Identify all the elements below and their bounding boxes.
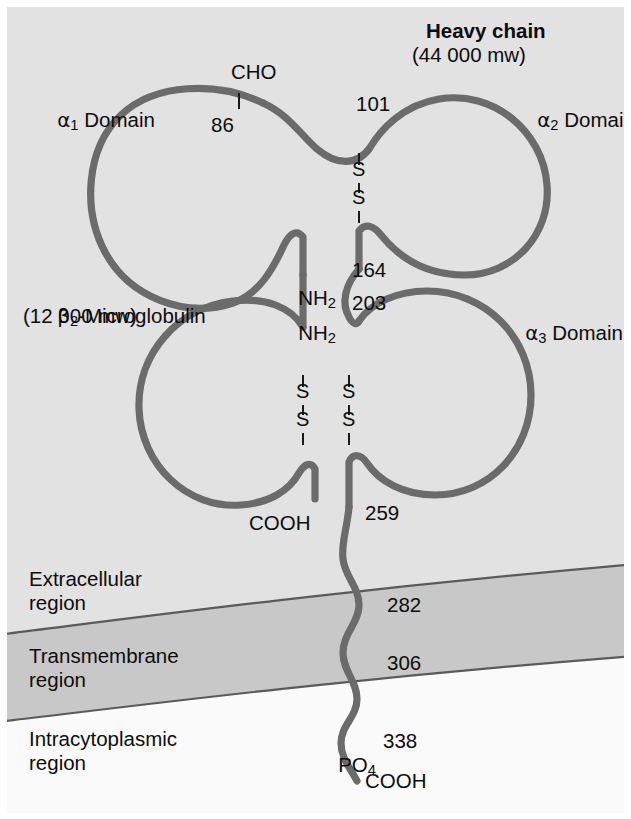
heavy-chain-title: Heavy chain [426,19,546,43]
residue-282: 282 [387,593,421,617]
residue-203: 203 [352,291,386,315]
alpha3-domain-label: α3 Domain [491,297,623,371]
alpha1-greek-symbol: α [57,109,70,132]
residue-86: 86 [211,113,234,137]
extracellular-region-line1: Extracellular [29,567,142,591]
intracytoplasmic-region-line1: Intracytoplasmic [29,727,177,751]
heavy-chain-mw: (44 000 mw) [412,43,526,67]
extracellular-region-line2: region [29,591,86,615]
b2m-mw: (12 000 mw) [23,304,137,328]
sulfur-b2m-upper: S [296,380,309,403]
transmembrane-region-line1: Transmembrane [29,644,179,668]
alpha1-alpha2-linker [263,103,369,161]
alpha2-greek-symbol: α [537,109,550,132]
sulfur-a2-upper: S [352,158,365,181]
nh2-b2m-text: NH [298,321,328,344]
sulfur-a3-upper: S [342,380,355,403]
alpha3-domain-text: Domain [552,321,623,344]
figure-page: Heavy chain (44 000 mw) α1 Domain α2 Dom… [0,0,631,819]
alpha3-subscript: 3 [538,330,546,346]
residue-101: 101 [356,92,390,116]
alpha3-greek-symbol: α [525,322,538,345]
nh2-b2m: NH2 [264,297,336,371]
residue-259: 259 [365,501,399,525]
nh2-b2m-subscript: 2 [328,330,336,346]
alpha2-domain-label: α2 Domain [503,84,624,158]
alpha2-subscript: 2 [550,117,558,133]
diagram-panel: Heavy chain (44 000 mw) α1 Domain α2 Dom… [7,7,624,813]
po4-label: PO4 [304,729,376,803]
cho-label: CHO [231,60,277,84]
alpha1-domain-text: Domain [84,108,155,131]
transmembrane-region-line2: region [29,668,86,692]
residue-164: 164 [352,258,386,282]
residue-338: 338 [383,729,417,753]
cooh-b2m: COOH [249,511,311,535]
po4-text: PO [338,753,368,776]
residue-306: 306 [387,651,421,675]
alpha1-subscript: 1 [70,117,78,133]
intracytoplasmic-region-line2: region [29,751,86,775]
alpha2-domain-text: Domain [564,108,624,131]
sulfur-b2m-lower: S [296,408,309,431]
sulfur-a3-lower: S [342,408,355,431]
po4-subscript: 4 [368,762,376,778]
sulfur-a2-lower: S [352,186,365,209]
alpha1-domain-label: α1 Domain [23,84,155,158]
